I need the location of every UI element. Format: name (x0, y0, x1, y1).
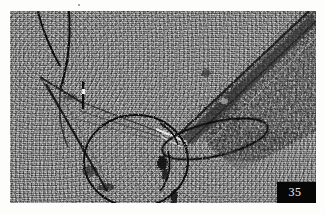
micrograph-features (10, 11, 316, 203)
figure-number-box: 35 (277, 182, 316, 203)
micrograph-plate: 35 (10, 11, 316, 203)
dust-speck (78, 4, 80, 6)
figure-page: 35 (0, 0, 325, 215)
angular-v-structure (40, 77, 162, 191)
figure-number-label: 35 (288, 186, 304, 199)
